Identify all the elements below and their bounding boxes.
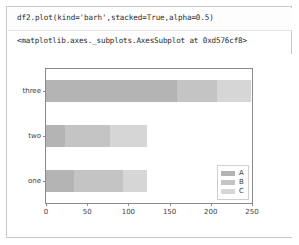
x-tick-label-250: 250 [245,208,258,216]
bar-one [46,170,147,192]
y-tick-label-one: one [28,177,41,185]
x-tick-mark [46,203,47,206]
x-tick-label-150: 150 [163,208,176,216]
bar-segment-C [110,125,146,147]
code-input-line[interactable]: df2.plot(kind='barh',stacked=True,alpha=… [8,8,292,31]
output-repr-text: <matplotlib.axes._subplots.AxesSubplot a… [17,36,247,45]
x-tick-mark [87,203,88,206]
bar-segment-C [123,170,146,192]
y-tick-mark [43,136,46,137]
legend-label-B: B [239,178,244,187]
x-tick-label-200: 200 [204,208,217,216]
bar-three [46,80,251,102]
bar-two [46,125,147,147]
y-tick-mark [43,91,46,92]
bar-segment-A [46,170,74,192]
legend-item-A: A [221,169,244,178]
bar-segment-B [74,170,123,192]
x-tick-label-0: 0 [44,208,48,216]
legend-item-C: C [221,187,244,196]
bar-segment-B [65,125,110,147]
chart-axes: onetwothree 050100150200250 ABC [45,68,253,204]
x-tick-label-50: 50 [83,208,92,216]
bar-segment-B [177,80,217,102]
bar-segment-C [217,80,252,102]
bar-segment-A [46,80,177,102]
legend-swatch-A [221,171,235,176]
y-tick-mark [43,181,46,182]
notebook-cell: df2.plot(kind='barh',stacked=True,alpha=… [6,6,292,238]
x-tick-mark [128,203,129,206]
output-repr-line: <matplotlib.axes._subplots.AxesSubplot a… [8,31,292,53]
matplotlib-figure: onetwothree 050100150200250 ABC [8,54,292,237]
legend-swatch-B [221,180,235,185]
legend-label-C: C [239,187,244,196]
y-tick-label-three: three [22,87,41,95]
code-text: df2.plot(kind='barh',stacked=True,alpha=… [17,13,214,22]
y-tick-label-two: two [28,132,41,140]
x-tick-mark [211,203,212,206]
x-tick-mark [170,203,171,206]
x-tick-label-100: 100 [122,208,135,216]
chart-legend: ABC [217,165,249,200]
legend-item-B: B [221,178,244,187]
bar-segment-A [46,125,65,147]
legend-label-A: A [239,169,244,178]
x-tick-mark [252,203,253,206]
legend-swatch-C [221,189,235,194]
